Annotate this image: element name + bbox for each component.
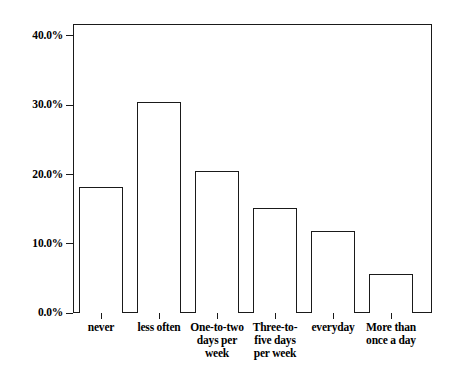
y-axis-tick-mark	[66, 243, 73, 244]
bars-container	[73, 24, 432, 313]
bar-chart: 0.0%10.0%20.0%30.0%40.0% neverless often…	[0, 0, 454, 370]
y-axis-tick-label: 30.0%	[32, 99, 66, 111]
y-axis-tick-mark	[66, 35, 73, 36]
bar	[137, 102, 181, 313]
x-axis-tick-mark	[159, 313, 160, 319]
bar	[195, 171, 239, 313]
x-axis-tick-mark	[101, 313, 102, 319]
x-axis-tick-label: More thanonce a day	[354, 321, 428, 347]
bar	[311, 231, 355, 313]
x-axis-tick-mark	[391, 313, 392, 319]
y-axis-tick-label: 40.0%	[32, 30, 66, 42]
y-axis-tick-mark	[66, 313, 73, 314]
y-axis-tick-label: 10.0%	[32, 238, 66, 250]
y-axis-tick-label: 20.0%	[32, 169, 66, 181]
bar	[253, 208, 297, 313]
x-axis-tick-mark	[217, 313, 218, 319]
y-axis-tick-mark	[66, 174, 73, 175]
y-axis-tick-label: 0.0%	[38, 307, 66, 319]
x-axis: neverless oftenOne-to-twodays perweekThr…	[73, 313, 432, 370]
y-axis: 0.0%10.0%20.0%30.0%40.0%	[0, 0, 73, 370]
y-axis-tick-mark	[66, 105, 73, 106]
bar	[369, 274, 413, 313]
x-axis-tick-mark	[333, 313, 334, 319]
x-axis-tick-mark	[275, 313, 276, 319]
bar	[79, 187, 123, 313]
